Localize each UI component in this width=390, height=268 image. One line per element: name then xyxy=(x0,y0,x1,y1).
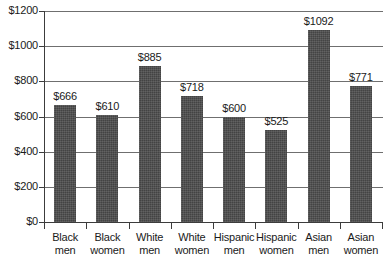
bar-value-label: $610 xyxy=(96,100,120,112)
x-axis-category-label: Whitewomen xyxy=(171,231,213,257)
bar-value-label: $771 xyxy=(349,71,373,83)
y-axis-tick-label: $200 xyxy=(0,181,38,192)
x-axis-tick-mark xyxy=(213,222,214,229)
x-axis-category-label: Asianmen xyxy=(298,231,340,257)
x-axis-category-label: Hispanicmen xyxy=(213,231,255,257)
bar-group: $885 xyxy=(129,11,171,222)
bar-value-label: $666 xyxy=(53,90,77,102)
y-axis-tick-label: $600 xyxy=(0,111,38,122)
bar-chart: $0$200$400$600$800$1000$1200 $666$610$88… xyxy=(0,0,390,268)
x-axis-category-line2: men xyxy=(213,244,255,257)
x-axis-category-label: Whitemen xyxy=(129,231,171,257)
y-axis-tick-label: $0 xyxy=(0,216,38,227)
y-axis-tick-label: $1200 xyxy=(0,5,38,16)
x-axis-category-line1: White xyxy=(129,231,171,244)
bars-layer: $666$610$885$718$600$525$1092$771 xyxy=(44,11,382,222)
bar[interactable] xyxy=(350,86,372,222)
bar-group: $666 xyxy=(44,11,86,222)
x-axis-tick-mark xyxy=(44,222,45,229)
bar-value-label: $600 xyxy=(222,102,246,114)
y-axis-label-group: $0$200$400$600$800$1000$1200 xyxy=(0,0,38,268)
bar-value-label: $525 xyxy=(265,115,289,127)
x-axis-category-line2: men xyxy=(129,244,171,257)
bar-group: $525 xyxy=(255,11,297,222)
bar-group: $600 xyxy=(213,11,255,222)
x-axis-category-line1: Black xyxy=(44,231,86,244)
bar[interactable] xyxy=(139,66,161,222)
x-axis-category-line2: women xyxy=(86,244,128,257)
x-axis-category-line1: Hispanic xyxy=(255,231,297,244)
x-axis-category-line2: men xyxy=(298,244,340,257)
bar-group: $771 xyxy=(340,11,382,222)
x-axis-tick-mark xyxy=(340,222,341,229)
y-axis-tick-label: $400 xyxy=(0,146,38,157)
bar-value-label: $718 xyxy=(180,81,204,93)
bar[interactable] xyxy=(223,117,245,223)
x-axis-category-line1: White xyxy=(171,231,213,244)
x-axis-category-label: Hispanicwomen xyxy=(255,231,297,257)
x-axis-tick-mark xyxy=(298,222,299,229)
x-axis-category-label: Blackmen xyxy=(44,231,86,257)
x-axis-tick-mark xyxy=(255,222,256,229)
bar-value-label: $1092 xyxy=(304,15,334,27)
x-axis-tick-mark xyxy=(129,222,130,229)
x-axis-category-line1: Black xyxy=(86,231,128,244)
x-axis-category-line2: men xyxy=(44,244,86,257)
x-axis-category-label: Blackwomen xyxy=(86,231,128,257)
x-axis-tick-mark xyxy=(171,222,172,229)
x-axis-category-line1: Asian xyxy=(340,231,382,244)
bar[interactable] xyxy=(308,30,330,222)
bar[interactable] xyxy=(181,96,203,222)
y-axis-tick-label: $1000 xyxy=(0,40,38,51)
x-axis-category-line1: Asian xyxy=(298,231,340,244)
bar-value-label: $885 xyxy=(138,51,162,63)
bar[interactable] xyxy=(96,115,118,222)
bar[interactable] xyxy=(54,105,76,222)
bar[interactable] xyxy=(265,130,287,222)
x-axis-tick-mark xyxy=(86,222,87,229)
x-axis-tick-mark xyxy=(382,222,383,229)
y-axis-tick-label: $800 xyxy=(0,75,38,86)
x-axis-category-label: Asianwomen xyxy=(340,231,382,257)
bar-group: $610 xyxy=(86,11,128,222)
bar-group: $718 xyxy=(171,11,213,222)
x-axis-category-line2: women xyxy=(171,244,213,257)
x-axis-category-group: BlackmenBlackwomenWhitemenWhitewomenHisp… xyxy=(44,222,382,268)
x-axis-category-line1: Hispanic xyxy=(213,231,255,244)
x-axis-category-line2: women xyxy=(255,244,297,257)
bar-group: $1092 xyxy=(298,11,340,222)
x-axis-category-line2: women xyxy=(340,244,382,257)
